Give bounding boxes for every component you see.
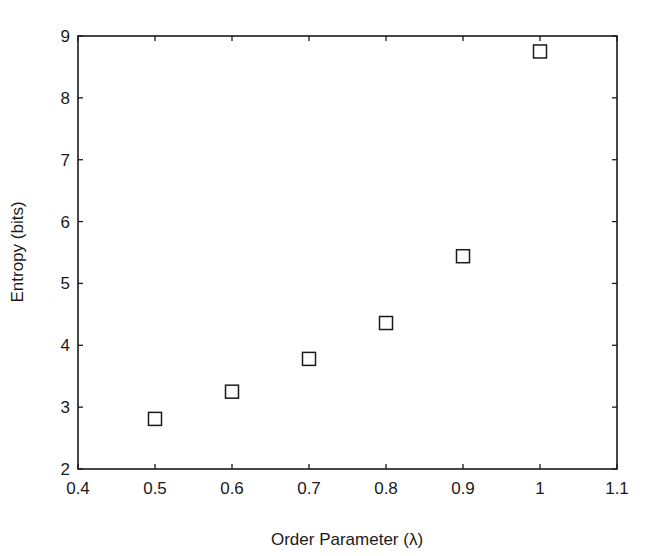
- x-tick-label: 0.7: [297, 479, 321, 498]
- x-tick-label: 1: [535, 479, 544, 498]
- x-tick-label: 1.1: [605, 479, 629, 498]
- x-tick-label: 0.9: [451, 479, 475, 498]
- x-tick-label: 0.6: [220, 479, 244, 498]
- data-point-square: [534, 45, 547, 58]
- y-axis-label: Entropy (bits): [8, 201, 28, 302]
- x-axis-label: Order Parameter (λ): [271, 530, 423, 550]
- scatter-chart: 0.40.50.60.70.80.911.123456789: [0, 0, 657, 556]
- y-tick-label: 6: [61, 213, 70, 232]
- y-tick-label: 5: [61, 274, 70, 293]
- data-point-square: [380, 317, 393, 330]
- y-tick-label: 9: [61, 27, 70, 46]
- x-tick-label: 0.8: [374, 479, 398, 498]
- x-tick-label: 0.5: [143, 479, 167, 498]
- data-point-square: [226, 385, 239, 398]
- plot-frame: [78, 36, 617, 469]
- y-tick-label: 3: [61, 398, 70, 417]
- y-tick-label: 8: [61, 89, 70, 108]
- data-point-square: [457, 250, 470, 263]
- y-tick-label: 2: [61, 460, 70, 479]
- y-tick-label: 4: [61, 336, 70, 355]
- data-point-square: [303, 352, 316, 365]
- data-point-square: [149, 412, 162, 425]
- y-tick-label: 7: [61, 151, 70, 170]
- x-tick-label: 0.4: [66, 479, 90, 498]
